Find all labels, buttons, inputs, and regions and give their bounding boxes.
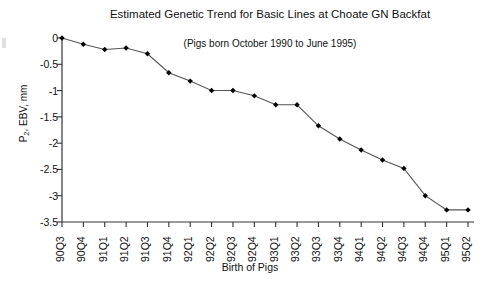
x-axis-tick-label: 92Q1 <box>182 236 194 262</box>
x-axis-tick-label: 92Q4 <box>246 236 258 262</box>
y-axis-tick-label: -2.5 <box>22 163 58 175</box>
data-point-marker <box>337 136 342 141</box>
x-axis-tick-label: 93Q1 <box>268 236 280 262</box>
x-axis-tick-label: 93Q3 <box>310 236 322 262</box>
y-axis-tick-label: 0 <box>22 32 58 44</box>
x-axis-tick-label: 93Q4 <box>332 236 344 262</box>
x-axis-tick-label: 95Q1 <box>439 236 451 262</box>
axes <box>57 36 474 227</box>
data-point-markers <box>59 35 470 212</box>
trend-line <box>62 38 468 210</box>
y-axis-tick-label: -0.5 <box>22 58 58 70</box>
x-axis-tick-label: 94Q2 <box>375 236 387 262</box>
y-axis-tick-label: -2 <box>22 137 58 149</box>
x-axis-tick-label: 90Q4 <box>75 236 87 262</box>
y-axis-tick-label: -3 <box>22 190 58 202</box>
y-axis-tick-label: -1 <box>22 85 58 97</box>
x-axis-tick-label: 93Q2 <box>289 236 301 262</box>
x-axis-tick-label: 91Q1 <box>97 236 109 262</box>
x-axis-tick-label: 92Q3 <box>225 236 237 262</box>
x-axis-label: Birth of Pigs <box>160 261 340 273</box>
data-point-marker <box>252 93 257 98</box>
x-tick-labels: 90Q390Q491Q191Q291Q391Q492Q192Q292Q392Q4… <box>0 226 495 262</box>
x-axis-tick-label: 94Q4 <box>417 236 429 262</box>
data-point-marker <box>59 35 64 40</box>
data-point-marker <box>230 88 235 93</box>
data-point-marker <box>273 102 278 107</box>
x-axis-tick-label: 90Q3 <box>54 236 66 262</box>
data-point-marker <box>380 157 385 162</box>
x-axis-tick-label: 94Q3 <box>396 236 408 262</box>
data-point-marker <box>358 147 363 152</box>
chart-subtitle: (Pigs born October 1990 to June 1995) <box>70 38 470 50</box>
x-axis-tick-label: 92Q2 <box>204 236 216 262</box>
data-point-marker <box>209 88 214 93</box>
x-axis-tick-label: 94Q1 <box>353 236 365 262</box>
y-axis-tick-label: -1.5 <box>22 111 58 123</box>
x-axis-tick-label: 91Q3 <box>139 236 151 262</box>
data-point-marker <box>188 78 193 83</box>
x-axis-tick-label: 91Q2 <box>118 236 130 262</box>
genetic-trend-chart: Estimated Genetic Trend for Basic Lines … <box>0 0 495 284</box>
scan-edge-artifact <box>2 38 6 48</box>
x-axis-tick-label: 95Q2 <box>460 236 472 262</box>
chart-title: Estimated Genetic Trend for Basic Lines … <box>70 8 470 22</box>
data-point-marker <box>465 207 470 212</box>
x-axis-tick-label: 91Q4 <box>161 236 173 262</box>
